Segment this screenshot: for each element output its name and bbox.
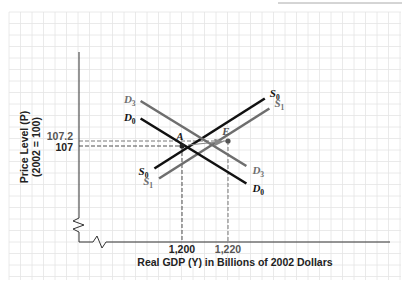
- point-label-E: E: [221, 125, 229, 137]
- x-tick-label: 1,220: [215, 243, 241, 255]
- curve-D0: [141, 119, 247, 184]
- x-tick-label: 1,200: [169, 243, 195, 255]
- curve-label-S1-start: S1: [143, 175, 153, 190]
- y-axis-label: Price Level (P): [18, 111, 30, 183]
- ad-as-chart: S0S0S1S1D0D0D3D3 AE 1,2001,220107.2107 R…: [0, 0, 409, 291]
- y-axis-sublabel: (2002 = 100): [30, 117, 42, 177]
- point-A: [179, 143, 184, 148]
- curve-label-D0-end: D0: [251, 182, 264, 197]
- point-E: [225, 138, 230, 143]
- y-tick-label: 107: [55, 141, 73, 153]
- tick-labels: 1,2001,220107.2107: [47, 130, 242, 255]
- curve-label-S1-end: S1: [274, 97, 284, 112]
- curve-S0: [154, 99, 264, 169]
- curve-label-D3-end: D3: [251, 164, 264, 179]
- curve-label-D0-start: D0: [123, 111, 136, 126]
- point-label-A: A: [175, 130, 183, 142]
- x-axis-label: Real GDP (Y) in Billions of 2002 Dollars: [137, 256, 332, 268]
- curve-label-D3-start: D3: [123, 93, 136, 108]
- y-axis: [73, 52, 84, 242]
